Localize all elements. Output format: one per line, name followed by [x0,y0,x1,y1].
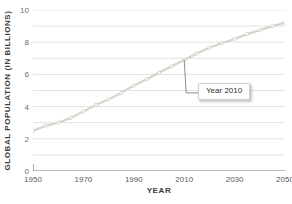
annotation-callout-label: Year 2010 [206,86,242,95]
x-tick-label: 2050 [276,175,292,184]
y-axis-title: GLOBAL POPULATION (IN BILLIONS) [0,0,16,180]
x-tick-label: 2010 [175,175,193,184]
x-tick-label: 2030 [226,175,244,184]
y-tick-label: 2 [25,134,29,143]
x-axis-title: YEAR [33,186,285,195]
population-line-chart: GLOBAL POPULATION (IN BILLIONS) 0246810 … [0,0,292,204]
x-tick-label: 1990 [125,175,143,184]
y-tick-label: 10 [20,6,29,15]
y-tick-label: 4 [25,102,29,111]
x-tick-label: 1950 [24,175,42,184]
y-axis-title-text: GLOBAL POPULATION (IN BILLIONS) [4,10,13,170]
y-tick-label: 8 [25,38,29,47]
y-tick-label: 6 [25,70,29,79]
annotation-callout: Year 2010 [198,83,250,100]
x-tick-label: 1970 [74,175,92,184]
